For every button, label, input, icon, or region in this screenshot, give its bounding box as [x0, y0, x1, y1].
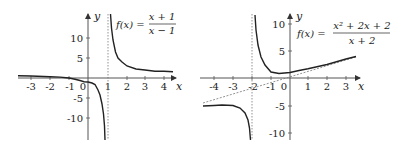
x-tick-label: 3: [142, 81, 148, 92]
y-tick-label: -10: [67, 113, 83, 124]
svg-text:f(x) =: f(x) =: [296, 28, 326, 39]
curve-left-branch: [203, 105, 251, 140]
x-tick-label: 0: [281, 81, 287, 92]
x-tick-label: -4: [209, 81, 219, 92]
y-tick-label: 5: [77, 53, 83, 64]
formula-numerator: x² + 2x + 2: [333, 20, 391, 31]
x-tick-label: 3: [343, 81, 349, 92]
y-tick-label: -10: [269, 128, 285, 139]
svg-text:f(x) =: f(x) =: [115, 19, 145, 30]
formula-denominator: x + 2: [349, 35, 376, 46]
formula-right: f(x) = x² + 2x + 2 x + 2: [296, 20, 391, 46]
y-tick-label: 10: [272, 19, 285, 30]
formula-left: f(x) = x + 1 x − 1: [115, 11, 176, 36]
y-tick-label: -5: [73, 93, 83, 104]
formula-numerator: x + 1: [149, 11, 176, 22]
x-tick-label: 2: [124, 81, 130, 92]
y-tick-label: 10: [70, 33, 83, 44]
graph-left: -3 -2 -1 0 1 2 3 4 x 10 5 -5 -10 y f(x) …: [18, 10, 183, 140]
x-tick-label: 2: [324, 81, 330, 92]
x-axis-label: x: [176, 80, 183, 93]
y-axis-label: y: [295, 10, 303, 23]
x-axis-label: x: [358, 80, 365, 93]
x-tick-label: 4: [161, 81, 167, 92]
oblique-asymptote: [203, 57, 356, 103]
y-tick-label: 5: [279, 46, 285, 57]
x-tick-label: 0: [80, 81, 86, 92]
function-graphs: -3 -2 -1 0 1 2 3 4 x 10 5 -5 -10 y f(x) …: [0, 0, 400, 150]
y-tick-label: -5: [275, 101, 285, 112]
formula-denominator: x − 1: [149, 25, 176, 36]
x-tick-label: -2: [45, 81, 55, 92]
y-axis-label: y: [93, 10, 101, 23]
x-tick-label: 1: [305, 81, 311, 92]
x-tick-label: -1: [65, 81, 75, 92]
x-tick-label: -3: [26, 81, 36, 92]
x-tick-label: -2: [248, 81, 258, 92]
graph-right: -4 -3 -2 -1 0 1 2 3 x 10 5 -5 -10 y f(x)…: [200, 10, 391, 140]
x-tick-label: -3: [228, 81, 238, 92]
